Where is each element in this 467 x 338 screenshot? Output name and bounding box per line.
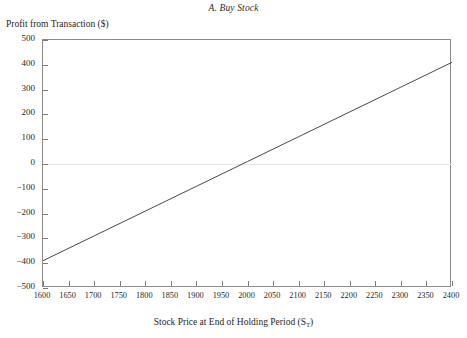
chart-figure: A. Buy Stock Profit from Transaction ($)… bbox=[0, 0, 467, 338]
y-tick-label: 400 bbox=[0, 58, 35, 68]
x-axis-label-main: Stock Price at End of Holding Period (S bbox=[154, 317, 306, 327]
x-tick-mark bbox=[94, 281, 95, 286]
y-tick-label: −400 bbox=[0, 256, 35, 266]
y-tick-mark bbox=[43, 40, 48, 41]
y-tick-mark bbox=[43, 263, 48, 264]
data-line-svg bbox=[43, 40, 452, 288]
y-tick-mark bbox=[43, 139, 48, 140]
x-tick-mark bbox=[426, 281, 427, 286]
x-tick-mark bbox=[248, 281, 249, 286]
x-tick-mark bbox=[196, 281, 197, 286]
y-axis-label: Profit from Transaction ($) bbox=[6, 19, 109, 29]
x-axis-label-tail: ) bbox=[310, 317, 313, 327]
y-tick-mark bbox=[43, 65, 48, 66]
x-axis-label-subscript: T bbox=[306, 321, 310, 328]
x-tick-mark bbox=[375, 281, 376, 286]
plot-area bbox=[42, 39, 451, 287]
y-tick-mark bbox=[43, 214, 48, 215]
y-tick-label: 300 bbox=[0, 83, 35, 93]
x-tick-mark bbox=[43, 281, 44, 286]
y-tick-mark bbox=[43, 288, 48, 289]
x-tick-mark bbox=[69, 281, 70, 286]
y-tick-label: −100 bbox=[0, 182, 35, 192]
x-tick-mark bbox=[171, 281, 172, 286]
y-tick-label: −200 bbox=[0, 207, 35, 217]
x-tick-mark bbox=[324, 281, 325, 286]
x-axis-label: Stock Price at End of Holding Period (ST… bbox=[0, 317, 467, 327]
x-tick-mark bbox=[145, 281, 146, 286]
y-tick-label: −300 bbox=[0, 231, 35, 241]
x-tick-mark bbox=[273, 281, 274, 286]
x-tick-label: 2400 bbox=[436, 291, 466, 300]
y-tick-label: 0 bbox=[0, 157, 35, 167]
y-tick-mark bbox=[43, 189, 48, 190]
x-tick-mark bbox=[401, 281, 402, 286]
y-tick-mark bbox=[43, 90, 48, 91]
x-tick-mark bbox=[350, 281, 351, 286]
x-tick-mark bbox=[120, 281, 121, 286]
y-tick-label: 100 bbox=[0, 132, 35, 142]
x-tick-mark bbox=[299, 281, 300, 286]
y-tick-mark bbox=[43, 164, 48, 165]
y-tick-label: 500 bbox=[0, 33, 35, 43]
x-tick-mark bbox=[222, 281, 223, 286]
y-tick-label: 200 bbox=[0, 107, 35, 117]
y-tick-mark bbox=[43, 238, 48, 239]
chart-title: A. Buy Stock bbox=[0, 3, 467, 13]
x-tick-mark bbox=[452, 281, 453, 286]
y-tick-mark bbox=[43, 114, 48, 115]
series-line-buy-stock bbox=[43, 62, 452, 260]
y-tick-label: −500 bbox=[0, 281, 35, 291]
